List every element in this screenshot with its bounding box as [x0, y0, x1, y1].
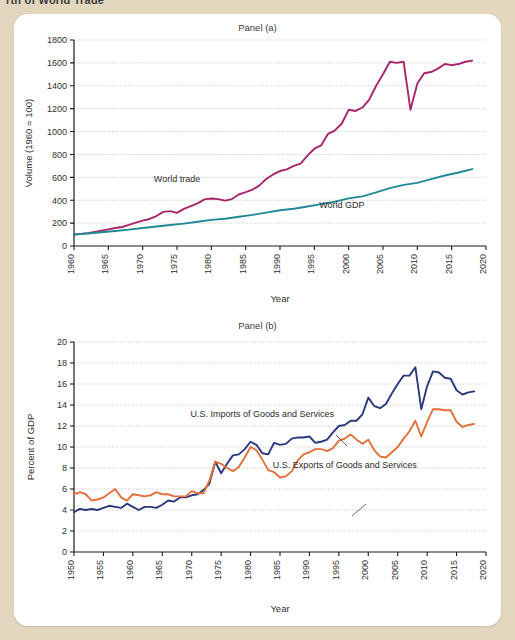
x-tick-label: 1970 [135, 254, 145, 274]
x-tick-label: 2000 [360, 560, 370, 580]
x-tick-label: 2000 [341, 254, 351, 274]
x-axis-title: Year [270, 293, 289, 304]
x-tick-label: 1980 [203, 254, 213, 274]
x-tick-label: 1980 [243, 560, 253, 580]
series-label: U.S. Imports of Goods and Services [191, 409, 335, 419]
y-tick-label: 4 [62, 505, 67, 515]
x-tick-label: 2005 [375, 254, 385, 274]
x-tick-label: 1950 [66, 560, 76, 580]
y-tick-label: 800 [52, 150, 67, 160]
y-tick-label: 20 [57, 337, 67, 347]
y-tick-label: 1800 [47, 35, 67, 45]
x-tick-label: 2010 [419, 560, 429, 580]
x-tick-label: 1960 [125, 560, 135, 580]
x-tick-label: 2020 [478, 254, 488, 274]
y-tick-label: 8 [62, 463, 67, 473]
series-label: U.S. Exports of Goods and Services [273, 460, 418, 470]
y-tick-label: 200 [52, 218, 67, 228]
x-tick-label: 1965 [154, 560, 164, 580]
y-tick-label: 600 [52, 173, 67, 183]
y-tick-label: 1400 [47, 81, 67, 91]
y-tick-label: 0 [62, 241, 67, 251]
y-tick-label: 16 [57, 379, 67, 389]
y-tick-label: 14 [57, 400, 67, 410]
panel-a-chart: 0200400600800100012001400160018001960196… [14, 14, 501, 314]
series-label: World trade [154, 174, 200, 184]
y-tick-label: 1000 [47, 127, 67, 137]
y-tick-label: 12 [57, 421, 67, 431]
x-axis-title: Year [270, 603, 289, 614]
panel-b-chart: 0246810121416182019501955196019651970197… [14, 310, 501, 626]
series-line [74, 409, 474, 500]
x-tick-label: 1990 [272, 254, 282, 274]
x-tick-label: 1975 [169, 254, 179, 274]
x-tick-label: 1965 [100, 254, 110, 274]
page-cut-title: rth of World Trade [6, 0, 104, 6]
x-tick-label: 1955 [95, 560, 105, 580]
x-tick-label: 1985 [238, 254, 248, 274]
annotation-leader-line [336, 435, 347, 446]
y-tick-label: 2 [62, 526, 67, 536]
y-tick-label: 10 [57, 442, 67, 452]
panel-a: Panel (a) 020040060080010001200140016001… [14, 14, 501, 314]
y-axis-title: Volume (1960 = 100) [23, 99, 34, 187]
x-tick-label: 2015 [444, 254, 454, 274]
x-tick-label: 2005 [390, 560, 400, 580]
series-line [74, 169, 472, 234]
y-tick-label: 1200 [47, 104, 67, 114]
y-axis-title: Percent of GDP [25, 414, 36, 481]
x-tick-label: 1985 [272, 560, 282, 580]
x-tick-label: 1995 [331, 560, 341, 580]
x-tick-label: 1960 [66, 254, 76, 274]
y-tick-label: 6 [62, 484, 67, 494]
series-line [74, 61, 472, 235]
x-tick-label: 2015 [449, 560, 459, 580]
y-tick-label: 18 [57, 358, 67, 368]
y-tick-label: 0 [62, 547, 67, 557]
y-tick-label: 1600 [47, 58, 67, 68]
x-tick-label: 2020 [478, 560, 488, 580]
figure-card: Panel (a) 020040060080010001200140016001… [14, 14, 501, 626]
x-tick-label: 1990 [301, 560, 311, 580]
x-tick-label: 1995 [306, 254, 316, 274]
series-line [74, 367, 474, 512]
x-tick-label: 2010 [409, 254, 419, 274]
x-tick-label: 1970 [184, 560, 194, 580]
y-tick-label: 400 [52, 196, 67, 206]
x-tick-label: 1975 [213, 560, 223, 580]
series-label: World GDP [319, 200, 364, 210]
panel-b: Panel (b) 024681012141618201950195519601… [14, 310, 501, 626]
